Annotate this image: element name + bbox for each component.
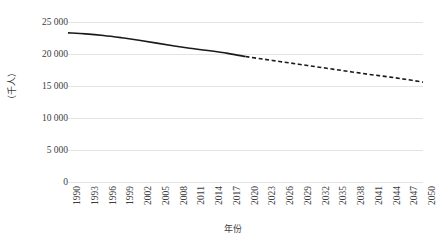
x-axis-tick-label: 2017 <box>232 186 242 205</box>
x-axis-tick-label: 1993 <box>90 186 100 205</box>
x-axis-tick-label: 2050 <box>427 186 436 205</box>
x-axis-tick-label: 2041 <box>374 186 384 205</box>
x-axis-tick-label: 2029 <box>303 186 313 205</box>
x-axis-tick-labels: 1990199319961999200220052008201120142017… <box>0 0 436 241</box>
x-axis-tick-label: 2026 <box>285 186 295 205</box>
x-axis-tick-label: 2044 <box>392 186 402 205</box>
x-axis-tick-label: 2011 <box>196 186 206 205</box>
line-chart: （千人） 05 00010 00015 00020 00025 000 1990… <box>0 0 436 241</box>
x-axis-tick-label: 2014 <box>214 186 224 205</box>
x-axis-tick-label: 1990 <box>72 186 82 205</box>
x-axis-tick-label: 2032 <box>321 186 331 205</box>
x-axis-tick-label: 2047 <box>409 186 419 205</box>
x-axis-tick-label: 1999 <box>125 186 135 205</box>
x-axis-title: 年份 <box>0 222 436 235</box>
x-axis-tick-label: 2002 <box>143 186 153 205</box>
x-axis-tick-label: 2008 <box>179 186 189 205</box>
x-axis-tick-label: 2038 <box>356 186 366 205</box>
x-axis-tick-label: 2023 <box>267 186 277 205</box>
x-axis-tick-label: 2005 <box>161 186 171 205</box>
x-axis-tick-label: 1996 <box>108 186 118 205</box>
x-axis-tick-label: 2020 <box>250 186 260 205</box>
x-axis-tick-label: 2035 <box>338 186 348 205</box>
